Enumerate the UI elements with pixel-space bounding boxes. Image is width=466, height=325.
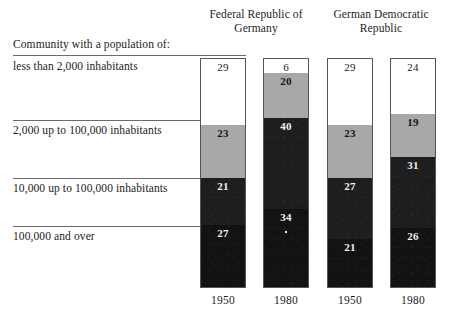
bar-segment: 6	[264, 59, 308, 73]
bar-segment: 21	[328, 239, 372, 287]
bar-segment: 27	[328, 178, 372, 240]
row-label-2000-to-100000: 2,000 up to 100,000 inhabitants	[13, 124, 162, 136]
bar-segment: 21	[201, 178, 245, 226]
bar-segment-value: 23	[344, 125, 355, 177]
bar-gdr-1950: 29232721	[327, 58, 373, 288]
bar-segment-value: 40	[280, 118, 291, 209]
bar-segment-value: 26	[407, 228, 418, 287]
year-label-frg-1950: 1950	[200, 294, 246, 306]
bar-segment-value: 19	[407, 114, 418, 157]
bar-segment: 27	[201, 225, 245, 287]
bar-segment-value: 6	[283, 59, 289, 73]
row-label-less-than-2000: less than 2,000 inhabitants	[13, 60, 138, 72]
group-header-line-2: Republic	[322, 22, 440, 36]
group-header-german-democratic-republic: German Democratic Republic	[322, 8, 440, 35]
print-artifact-dot	[285, 231, 287, 233]
group-header-line-1: Federal Republic of	[200, 8, 312, 22]
bar-segment: 31	[391, 157, 435, 228]
row-label-10000-to-100000: 10,000 up to 100,000 inhabitants	[13, 182, 168, 194]
group-header-federal-republic-of-germany: Federal Republic of Germany	[200, 8, 312, 35]
bar-segment: 24	[391, 59, 435, 114]
bar-segment-value: 20	[280, 73, 291, 119]
rule-under-caption	[13, 55, 246, 56]
year-label-frg-1980: 1980	[263, 294, 309, 306]
bar-segment: 19	[391, 114, 435, 157]
bar-segment-value: 21	[217, 178, 228, 226]
bar-segment: 34	[264, 209, 308, 287]
bar-segment: 29	[328, 59, 372, 125]
bar-segment-value: 24	[407, 59, 418, 114]
bar-segment: 26	[391, 228, 435, 287]
year-label-gdr-1980: 1980	[390, 294, 436, 306]
bar-segment-value: 34	[280, 209, 291, 287]
bar-segment: 20	[264, 73, 308, 119]
bar-segment-value: 23	[217, 125, 228, 177]
bar-segment-value: 31	[407, 157, 418, 228]
bar-segment: 23	[201, 125, 245, 177]
bar-segment-value: 21	[344, 239, 355, 287]
bar-segment-value: 27	[344, 178, 355, 240]
bar-segment: 29	[201, 59, 245, 125]
bar-segment: 40	[264, 118, 308, 209]
group-header-line-2: Germany	[200, 22, 312, 36]
chart-caption: Community with a population of:	[13, 38, 170, 50]
group-header-line-1: German Democratic	[322, 8, 440, 22]
bar-gdr-1980: 24193126	[390, 58, 436, 288]
bar-segment-value: 29	[217, 59, 228, 125]
row-label-100000-and-over: 100,000 and over	[13, 230, 95, 242]
bar-frg-1980: 6204034	[263, 58, 309, 288]
year-label-gdr-1950: 1950	[327, 294, 373, 306]
bar-segment-value: 29	[344, 59, 355, 125]
bar-frg-1950: 29232127	[200, 58, 246, 288]
bar-segment-value: 27	[217, 225, 228, 287]
bar-segment: 23	[328, 125, 372, 177]
stacked-bar-chart: Federal Republic of Germany German Democ…	[0, 0, 466, 325]
